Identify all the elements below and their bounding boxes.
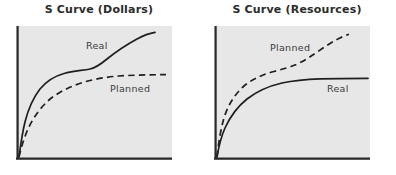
chart-panel-dollars: S Curve (Dollars) Real Planned — [0, 0, 198, 175]
plot-area-dollars: Real Planned — [16, 26, 172, 160]
s-curve-figure: S Curve (Dollars) Real Planned S Curve (… — [0, 0, 396, 175]
curve-label-planned-dollars: Planned — [110, 83, 150, 94]
curve-label-real-dollars: Real — [86, 40, 108, 51]
curve-label-planned-resources: Planned — [270, 42, 310, 53]
chart-title-resources: S Curve (Resources) — [198, 3, 396, 16]
chart-panel-resources: S Curve (Resources) Planned Real — [198, 0, 396, 175]
chart-title-dollars: S Curve (Dollars) — [0, 3, 198, 16]
curve-label-real-resources: Real — [327, 83, 349, 94]
plot-area-resources: Planned Real — [214, 26, 370, 160]
